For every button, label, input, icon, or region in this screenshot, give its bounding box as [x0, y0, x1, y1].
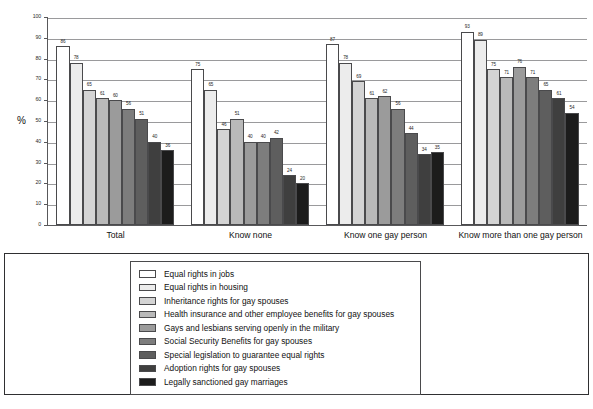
bar-slot: 75: [191, 18, 204, 225]
bar-value-label: 87: [330, 38, 335, 43]
bar[interactable]: 54: [565, 113, 578, 225]
bar[interactable]: 42: [270, 138, 283, 225]
bar-value-label: 20: [300, 177, 305, 182]
bar[interactable]: 61: [552, 98, 565, 225]
legend-item[interactable]: Gays and lesbians serving openly in the …: [131, 321, 420, 335]
bar[interactable]: 36: [161, 150, 174, 225]
y-tick-label: 0: [38, 221, 41, 227]
y-tick-label: 10: [35, 200, 41, 206]
bar[interactable]: 71: [526, 77, 539, 225]
bar[interactable]: 20: [296, 183, 309, 225]
legend-item[interactable]: Equal rights in housing: [131, 281, 420, 295]
bar-slot: 76: [513, 18, 526, 225]
bar-value-label: 36: [165, 144, 170, 149]
bar-value-label: 61: [100, 92, 105, 97]
bar-value-label: 76: [517, 60, 522, 65]
legend-item[interactable]: Legally sanctioned gay marriages: [131, 375, 420, 389]
bar[interactable]: 75: [487, 69, 500, 225]
bar[interactable]: 56: [391, 109, 404, 225]
bar[interactable]: 40: [148, 142, 161, 225]
bar[interactable]: 34: [418, 154, 431, 225]
bar-value-label: 78: [74, 56, 79, 61]
legend-item[interactable]: Adoption rights for gay spouses: [131, 362, 420, 376]
bar[interactable]: 65: [204, 90, 217, 225]
bar-group: 938975717671656154: [452, 18, 587, 225]
bar[interactable]: 40: [257, 142, 270, 225]
bar-value-label: 93: [465, 25, 470, 30]
bar-slot: 44: [405, 18, 418, 225]
legend-swatch: [139, 270, 156, 278]
x-axis-category-label: Know one gay person: [318, 230, 453, 240]
bar[interactable]: 46: [217, 129, 230, 225]
y-tick-label: 30: [35, 159, 41, 165]
bar-value-label: 89: [478, 33, 483, 38]
bar-value-label: 51: [139, 112, 144, 117]
bar[interactable]: 40: [244, 142, 257, 225]
legend-swatch: [139, 351, 156, 359]
bar[interactable]: 61: [96, 98, 109, 225]
bar-value-label: 40: [248, 135, 253, 140]
legend-swatch: [139, 338, 156, 346]
x-axis-category-label: Total: [48, 230, 183, 240]
bar-value-label: 78: [343, 56, 348, 61]
y-tick-label: 100: [33, 13, 41, 19]
bar-slot: 42: [270, 18, 283, 225]
legend-item[interactable]: Special legislation to guarantee equal r…: [131, 348, 420, 362]
bar[interactable]: 69: [352, 81, 365, 225]
legend-label: Adoption rights for gay spouses: [164, 363, 280, 373]
bar[interactable]: 44: [405, 133, 418, 225]
bar-slot: 51: [135, 18, 148, 225]
bar-slot: 78: [70, 18, 83, 225]
bar-value-label: 65: [543, 83, 548, 88]
bar-value-label: 42: [274, 131, 279, 136]
y-tick-label: 40: [35, 138, 41, 144]
bar-value-label: 54: [570, 106, 575, 111]
bar[interactable]: 93: [461, 32, 474, 225]
bar[interactable]: 56: [122, 109, 135, 225]
bar[interactable]: 89: [474, 40, 487, 225]
bar-slot: 65: [539, 18, 552, 225]
legend-label: Social Security Benefits for gay spouses: [164, 336, 312, 346]
plot-area: 0102030405060708090100 86786561605651403…: [47, 18, 587, 226]
bar[interactable]: 75: [191, 69, 204, 225]
legend-label: Gays and lesbians serving openly in the …: [164, 323, 339, 333]
bar-slot: 56: [122, 18, 135, 225]
bar[interactable]: 78: [339, 63, 352, 225]
bar[interactable]: 65: [539, 90, 552, 225]
bar-value-label: 62: [382, 90, 387, 95]
bar-slot: 56: [391, 18, 404, 225]
bar[interactable]: 87: [326, 44, 339, 225]
legend-item[interactable]: Health insurance and other employee bene…: [131, 308, 420, 322]
bar-value-label: 69: [356, 75, 361, 80]
bar-slot: 60: [109, 18, 122, 225]
bar[interactable]: 51: [135, 119, 148, 225]
bar-slot: 24: [283, 18, 296, 225]
legend-item[interactable]: Equal rights in jobs: [131, 267, 420, 281]
bar[interactable]: 62: [378, 96, 391, 225]
bar-value-label: 44: [409, 127, 414, 132]
bar[interactable]: 51: [230, 119, 243, 225]
bar-slot: 54: [565, 18, 578, 225]
bar[interactable]: 60: [109, 100, 122, 225]
bar[interactable]: 35: [431, 152, 444, 225]
legend-item[interactable]: Inheritance rights for gay spouses: [131, 294, 420, 308]
bar[interactable]: 71: [500, 77, 513, 225]
bar[interactable]: 65: [83, 90, 96, 225]
bar-group: 867865616056514036: [48, 18, 183, 225]
bar-value-label: 65: [87, 83, 92, 88]
bar[interactable]: 76: [513, 67, 526, 225]
legend-swatch: [139, 324, 156, 332]
bar-slot: 36: [161, 18, 174, 225]
bar[interactable]: 24: [283, 175, 296, 225]
bar-slot: 78: [339, 18, 352, 225]
bar-slot: 34: [418, 18, 431, 225]
legend-label: Equal rights in jobs: [164, 269, 234, 279]
bar[interactable]: 86: [56, 46, 69, 225]
legend-item[interactable]: Social Security Benefits for gay spouses: [131, 335, 420, 349]
bar-slot: 61: [365, 18, 378, 225]
bar[interactable]: 78: [70, 63, 83, 225]
bar-groups: 8678656160565140367565465140404224208778…: [48, 18, 587, 225]
y-tick-label: 80: [35, 55, 41, 61]
bar[interactable]: 61: [365, 98, 378, 225]
bar-value-label: 71: [530, 71, 535, 76]
